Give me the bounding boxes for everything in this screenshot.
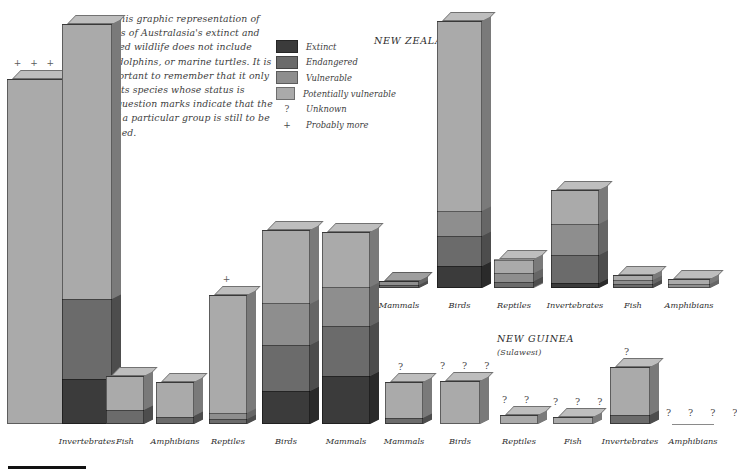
bar-side-face <box>653 271 662 288</box>
bar-front-face <box>262 230 310 424</box>
legend-item: ?Unknown <box>276 101 396 117</box>
bar-segment-vulnerable <box>437 211 482 236</box>
bar-segment-extinct <box>551 283 599 288</box>
legend-item-label: Probably more <box>306 120 368 130</box>
legend-item-label: Endangered <box>306 57 358 67</box>
unknown-marker: ? <box>385 361 423 372</box>
bar-amphibians <box>156 382 194 424</box>
legend-item-label: Potentially vulnerable <box>303 89 396 99</box>
bar-front-face <box>613 275 653 288</box>
region-caption-new-guinea: NEW GUINEA (Sulawesi) <box>497 333 574 357</box>
legend-swatch <box>276 40 298 53</box>
bar-mammals <box>385 382 423 424</box>
bar-side-face <box>599 186 608 288</box>
region-label: NEW GUINEA <box>497 333 574 344</box>
bar-segment-extinct <box>322 376 370 424</box>
bar-side-face <box>112 20 121 424</box>
bar-segment-potentially-vulnerable <box>106 376 144 410</box>
bar-category-label: Amphibians <box>652 300 726 310</box>
bar-segment-extinct <box>262 391 310 424</box>
bar-segment-potentially-vulnerable <box>437 21 482 211</box>
bar-front-face <box>62 24 112 424</box>
bar-segment-endangered <box>379 285 419 288</box>
bar-segment-potentially-vulnerable <box>494 260 534 274</box>
bar-segment-potentially-vulnerable <box>500 415 538 424</box>
legend-item: Endangered <box>276 55 396 71</box>
bar-segment-potentially-vulnerable <box>440 381 480 424</box>
question-mark-icon: ? <box>276 104 298 114</box>
bar-side-face <box>650 363 659 424</box>
probably-more-marker: + <box>209 274 247 284</box>
bar-front-face <box>385 382 423 424</box>
bar-side-face <box>710 275 719 288</box>
bottom-rule <box>8 466 86 469</box>
bar-segment-potentially-vulnerable <box>385 382 423 418</box>
unknown-marker: ? ? ? ? <box>666 407 720 418</box>
bar-front-face <box>437 21 482 288</box>
bar-segment-potentially-vulnerable <box>553 417 593 424</box>
bar-front-face <box>156 382 194 424</box>
bar-segment-endangered <box>613 284 653 288</box>
bar-segment-endangered <box>551 255 599 283</box>
bar-segment-endangered <box>156 417 194 424</box>
bar-invertebrates <box>551 190 599 288</box>
bar-front-face <box>668 279 710 288</box>
bar-segment-endangered <box>262 345 310 391</box>
bar-segment-endangered <box>385 418 423 424</box>
bar-birds <box>437 21 482 288</box>
bar-birds <box>262 230 310 424</box>
legend-item-label: Unknown <box>306 104 347 114</box>
bar-mammals <box>322 232 370 424</box>
bar-segment-extinct <box>437 266 482 288</box>
bar-segment-extinct <box>62 379 112 424</box>
bar-front-face <box>106 376 144 424</box>
bar-segment-potentially-vulnerable <box>209 295 247 413</box>
bar-side-face <box>247 291 256 424</box>
bar-fish <box>613 275 653 288</box>
bar-birds <box>440 381 480 424</box>
bar-segment-vulnerable <box>494 273 534 282</box>
bar-segment-endangered <box>209 419 247 424</box>
legend-item: Vulnerable <box>276 70 396 86</box>
bar-segment-vulnerable <box>262 303 310 344</box>
bar-front-face <box>7 79 64 424</box>
bar-front-face <box>553 417 593 424</box>
legend-swatch <box>276 87 295 100</box>
bar-reptiles <box>209 295 247 424</box>
bar-side-face <box>423 377 432 424</box>
bar-invertebrates <box>7 79 64 424</box>
bar-segment-endangered <box>610 415 650 424</box>
legend-swatch <box>276 71 298 84</box>
bar-fish <box>553 417 593 424</box>
legend-item-label: Vulnerable <box>306 73 352 83</box>
bar-segment-potentially-vulnerable <box>610 367 650 415</box>
bar-segment-endangered <box>106 410 144 424</box>
empty-bar-baseline <box>672 424 714 425</box>
bar-side-face <box>534 255 543 288</box>
bar-front-face <box>610 367 650 424</box>
legend: ExtinctEndangeredVulnerablePotentially v… <box>276 39 396 133</box>
bar-reptiles <box>500 415 538 424</box>
probably-more-marker: + + + <box>7 58 64 68</box>
legend-swatch <box>276 56 298 69</box>
bar-front-face <box>500 415 538 424</box>
bar-invertebrates <box>62 24 112 424</box>
bar-invertebrates <box>610 367 650 424</box>
unknown-marker: ? ? ? <box>553 396 593 407</box>
bar-segment-endangered <box>494 282 534 288</box>
bar-side-face <box>480 376 489 424</box>
bar-segment-potentially-vulnerable <box>551 190 599 224</box>
bar-front-face <box>209 295 247 424</box>
legend-item: +Probably more <box>276 117 396 133</box>
bar-front-face <box>440 381 480 424</box>
bar-front-face <box>322 232 370 424</box>
bar-segment-vulnerable <box>668 284 710 288</box>
bar-side-face <box>310 225 319 423</box>
bar-side-face <box>538 411 547 424</box>
legend-item-label: Extinct <box>306 42 336 52</box>
bar-front-face <box>379 281 419 288</box>
bar-segment-potentially-vulnerable <box>262 230 310 304</box>
plus-mark-icon: + <box>276 120 298 130</box>
bar-segment-endangered <box>62 299 112 379</box>
unknown-marker: ? ? ? <box>440 360 480 371</box>
